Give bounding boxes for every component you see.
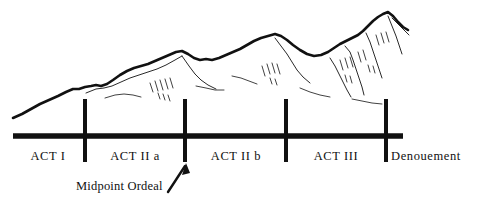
segment-label-act-2b: ACT II b [188,150,284,163]
segment-label-act-2a: ACT II a [87,150,183,163]
ridge-hatching [150,32,389,101]
segment-label-act-3: ACT III [288,150,384,163]
slope-contour-mid [196,86,224,90]
ridge-outline-path [13,12,408,118]
slope-contour-mid2 [232,76,257,84]
mountain-range-group [13,12,409,118]
diagram-canvas [0,0,479,203]
slope-contour-right [300,88,330,97]
foreground-ridge-right-d [388,16,402,54]
slope-contour-left [105,94,141,98]
slope-contour-right2 [352,99,382,104]
foreground-ridge-right-b [345,46,364,95]
segment-label-denouement: Denouement [391,150,479,163]
foreground-ridge-right-c [366,33,382,78]
segment-label-act-1: ACT I [0,150,96,163]
midpoint-arrow-icon [168,163,190,192]
story-structure-diagram: ACT I ACT II a ACT II b ACT III Denoueme… [0,0,479,203]
midpoint-ordeal-label: Midpoint Ordeal [76,180,163,193]
foreground-ridge-right-a [330,58,351,97]
